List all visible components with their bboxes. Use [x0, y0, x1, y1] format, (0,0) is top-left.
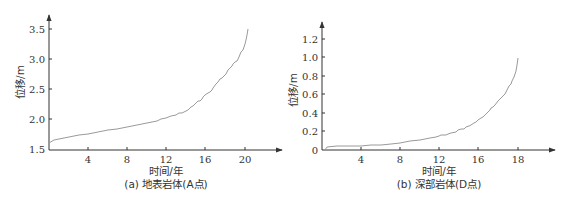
chart-a-xtick: 16 — [199, 154, 212, 165]
chart-b-ytick: 0.8 — [302, 71, 318, 82]
chart-b-ylabel: 位移/m — [287, 73, 299, 107]
chart-b-xtick: 8 — [397, 154, 403, 165]
chart-b: 1.2 1.0 0.8 0.6 0.4 0.2 0 4 8 12 16 18 位… — [287, 22, 555, 190]
chart-a-ytick: 3.5 — [29, 24, 45, 35]
chart-a-ylabel: 位移/m — [14, 65, 26, 99]
chart-a: 3.5 3.0 2.5 2.0 1.5 4 8 12 16 20 位移/m 时间… — [14, 15, 282, 190]
chart-a-ytick: 2.0 — [29, 114, 45, 125]
chart-b-ytick: 0.6 — [302, 89, 318, 100]
chart-a-ytick: 3.0 — [29, 54, 45, 65]
chart-a-xlabel: 时间/年 — [149, 165, 183, 177]
chart-b-ytick: 0.4 — [302, 108, 318, 119]
chart-b-xlabel: 时间/年 — [422, 165, 456, 177]
chart-b-xtick: 18 — [512, 154, 525, 165]
chart-b-caption: (b) 深部岩体(D点) — [397, 178, 481, 190]
chart-a-ytick: 1.5 — [29, 144, 45, 155]
chart-a-xtick: 20 — [239, 154, 252, 165]
chart-b-xtick: 16 — [472, 154, 485, 165]
chart-b-ytick: 0.2 — [302, 126, 318, 137]
chart-a-xtick: 12 — [160, 154, 173, 165]
figure: 3.5 3.0 2.5 2.0 1.5 4 8 12 16 20 位移/m 时间… — [0, 0, 570, 202]
chart-b-ytick: 1.0 — [302, 52, 318, 63]
chart-b-ytick: 0 — [312, 145, 318, 156]
chart-b-curve — [325, 58, 518, 150]
chart-a-ytick: 2.5 — [29, 84, 45, 95]
chart-a-xtick: 4 — [85, 154, 91, 165]
chart-a-curve — [49, 29, 248, 143]
chart-b-xtick: 12 — [433, 154, 446, 165]
chart-a-xtick: 8 — [124, 154, 130, 165]
chart-a-caption: (a) 地表岩体(A点) — [124, 178, 207, 190]
chart-b-xtick: 4 — [358, 154, 364, 165]
chart-b-ytick: 1.2 — [302, 34, 318, 45]
